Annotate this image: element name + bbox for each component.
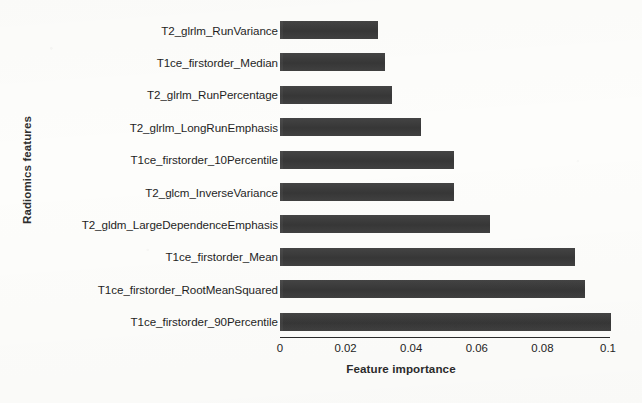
x-tick-label: 0.1 [600, 342, 616, 354]
plot-area: T2_glrlm_RunVariance T1ce_firstorder_Med… [40, 14, 630, 338]
y-tick-label: T2_gldm_LargeDependenceEmphasis [82, 218, 278, 231]
bar-chart-figure: Radiomics features T2_glrlm_RunVariance … [0, 0, 642, 403]
bar-row: T2_gldm_LargeDependenceEmphasis [40, 208, 630, 240]
bar-track [280, 46, 608, 78]
y-tick-label: T1ce_firstorder_10Percentile [131, 153, 278, 166]
bar-track [280, 241, 608, 273]
y-tick-label: T2_glcm_InverseVariance [145, 186, 278, 199]
bar-track [280, 273, 608, 305]
x-axis-title: Feature importance [0, 362, 642, 375]
y-tick-label: T2_glrlm_RunPercentage [147, 88, 278, 101]
y-tick-label: T1ce_firstorder_Median [157, 56, 278, 69]
y-tick-label: T1ce_firstorder_Mean [166, 250, 278, 263]
x-axis-title-label: Feature importance [346, 362, 455, 375]
bar-track [280, 14, 608, 46]
bar [280, 280, 585, 298]
bar [280, 248, 575, 266]
bar-row: T2_glcm_InverseVariance [40, 176, 630, 208]
bar-track [280, 306, 608, 338]
x-tick-label: 0 [277, 342, 283, 354]
x-tick-label: 0.08 [531, 342, 553, 354]
bar-row: T2_glrlm_RunPercentage [40, 79, 630, 111]
y-tick-label: T2_glrlm_RunVariance [161, 24, 278, 37]
x-tick-label: 0.06 [466, 342, 488, 354]
bar [280, 313, 611, 331]
bar-row: T2_glrlm_LongRunEmphasis [40, 111, 630, 143]
bar-row: T1ce_firstorder_Mean [40, 241, 630, 273]
bar-track [280, 111, 608, 143]
y-tick-label: T1ce_firstorder_90Percentile [131, 315, 278, 328]
bar-row: T1ce_firstorder_10Percentile [40, 144, 630, 176]
y-tick-label: T2_glrlm_LongRunEmphasis [130, 121, 278, 134]
bar [280, 151, 454, 169]
bar-row: T2_glrlm_RunVariance [40, 14, 630, 46]
bar [280, 53, 385, 71]
y-axis-title: Radiomics features [14, 0, 40, 340]
bar-row: T1ce_firstorder_RootMeanSquared [40, 273, 630, 305]
x-tick-label: 0.04 [400, 342, 422, 354]
y-tick-label: T1ce_firstorder_RootMeanSquared [98, 283, 278, 296]
bar [280, 21, 378, 39]
x-axis-line [280, 337, 610, 338]
bar [280, 86, 392, 104]
bar-row: T1ce_firstorder_90Percentile [40, 306, 630, 338]
x-tick-label: 0.02 [335, 342, 357, 354]
bar-track [280, 79, 608, 111]
bar-track [280, 208, 608, 240]
bar-track [280, 176, 608, 208]
x-axis-tick-labels: 0 0.02 0.04 0.06 0.08 0.1 [0, 342, 642, 360]
bar [280, 183, 454, 201]
bar-row: T1ce_firstorder_Median [40, 46, 630, 78]
y-axis-title-label: Radiomics features [21, 116, 33, 224]
bar [280, 215, 490, 233]
bar-track [280, 144, 608, 176]
bar [280, 118, 421, 136]
